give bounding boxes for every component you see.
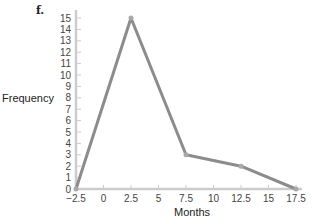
data-point [129,16,134,21]
plot-area: 0123456789101112131415−2.502.557.51012.5… [0,0,312,224]
y-tick-label: 4 [65,138,71,149]
y-tick-label: 1 [65,172,71,183]
y-tick-label: 9 [65,81,71,92]
y-tick-label: 15 [60,13,72,24]
y-tick-label: 6 [65,115,71,126]
y-tick-label: 13 [60,35,72,46]
y-tick-label: 3 [65,149,71,160]
y-tick-label: 14 [60,24,72,35]
y-tick-label: 7 [65,104,71,115]
data-series [74,16,299,192]
x-tick-label: 5 [156,193,162,204]
y-tick-label: 12 [60,47,72,58]
data-point [184,152,189,157]
y-tick-label: 11 [61,58,72,69]
x-tick-label: 15 [263,193,275,204]
y-tick-label: 2 [65,161,71,172]
x-tick-label: 17.5 [286,193,306,204]
x-tick-label: 10 [208,193,220,204]
data-point [294,187,299,192]
data-point [239,164,244,169]
y-tick-label: 10 [60,70,72,81]
y-tick-label: 5 [65,127,71,138]
ticks: 0123456789101112131415−2.502.557.51012.5… [60,13,306,205]
axes [76,10,302,189]
x-tick-label: 0 [101,193,107,204]
y-tick-label: 8 [65,92,71,103]
x-tick-label: −2.5 [66,193,86,204]
x-tick-label: 2.5 [124,193,138,204]
frequency-line [76,18,296,189]
x-tick-label: 12.5 [231,193,251,204]
data-point [74,187,79,192]
x-tick-label: 7.5 [179,193,193,204]
frequency-polygon-chart: f. Frequency Months 01234567891011121314… [0,0,312,224]
